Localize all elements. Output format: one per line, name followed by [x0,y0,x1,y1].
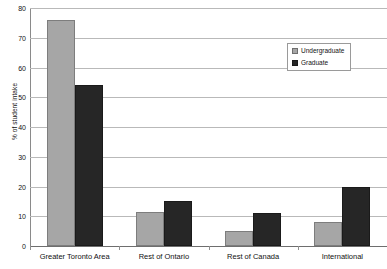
bar-chart: % of student intake 01020304050607080 Gr… [0,0,387,269]
x-axis-labels: Greater Toronto AreaRest of OntarioRest … [30,252,387,268]
y-tick-label-50: 50 [18,94,26,101]
x-axis-label-3: International [322,252,363,261]
bar-graduate-0 [75,85,103,246]
y-tick-label-60: 60 [18,64,26,71]
bar-undergraduate-3 [314,222,342,246]
graduate-swatch [292,60,298,66]
y-tick-label-10: 10 [18,213,26,220]
bar-graduate-2 [253,213,281,246]
y-tick-label-40: 40 [18,124,26,131]
bar-graduate-3 [342,187,370,247]
legend-label-0: Undergraduate [301,48,344,55]
chart-legend: UndergraduateGraduate [287,43,351,71]
y-axis-ticks: 01020304050607080 [0,0,29,246]
y-tick-label-80: 80 [18,5,26,12]
bar-undergraduate-1 [136,212,164,246]
y-tick-label-70: 70 [18,34,26,41]
bar-undergraduate-0 [47,20,75,246]
x-tickmark-1 [119,246,120,250]
y-tick-label-20: 20 [18,183,26,190]
x-axis-label-1: Rest of Ontario [139,252,189,261]
x-axis-label-0: Greater Toronto Area [40,252,110,261]
y-tick-label-0: 0 [22,243,26,250]
x-axis-label-2: Rest of Canada [227,252,279,261]
legend-label-1: Graduate [301,60,328,67]
bar-graduate-1 [164,201,192,246]
legend-item-undergraduate: Undergraduate [292,48,344,55]
x-tickmark-2 [209,246,210,250]
bar-undergraduate-2 [225,231,253,246]
x-tickmark-0 [30,246,31,250]
undergraduate-swatch [292,48,298,54]
x-tickmark-3 [298,246,299,250]
y-tick-label-30: 30 [18,153,26,160]
legend-item-graduate: Graduate [292,60,344,67]
